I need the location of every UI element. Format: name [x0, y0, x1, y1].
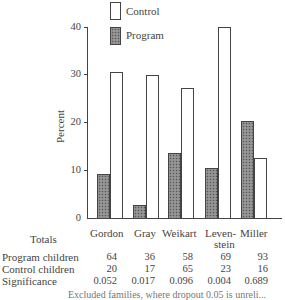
- cell: 69: [197, 251, 231, 262]
- bar-miller-control: [254, 158, 267, 219]
- bar-gordon-program: [97, 174, 110, 219]
- category-gordon: Gordon: [90, 227, 124, 239]
- bar-gray-control: [146, 75, 159, 219]
- y-axis-line: [87, 27, 88, 219]
- bar-weikart-program: [168, 153, 181, 219]
- category-gray: Gray: [134, 227, 156, 239]
- bar-levenstein-program: [205, 168, 218, 219]
- bar-weikart-control: [181, 88, 194, 219]
- cell: 23: [197, 263, 231, 274]
- cell: 0.004: [197, 275, 231, 286]
- category-miller: Miller: [240, 227, 268, 239]
- y-tick-30: [84, 74, 88, 75]
- cell: 58: [159, 251, 193, 262]
- y-tick-40: [84, 27, 88, 28]
- legend-program-label: Program: [126, 29, 164, 41]
- y-tick-20: [84, 122, 88, 123]
- cell: 20: [83, 263, 117, 274]
- bar-miller-program: [241, 121, 254, 219]
- y-axis-label: Percent: [54, 110, 66, 143]
- y-tick-label-30: 30: [61, 68, 81, 79]
- category-levenstein-line2: stein: [214, 238, 235, 250]
- bar-levenstein-control: [218, 27, 231, 219]
- cell: 0.017: [121, 275, 155, 286]
- legend-control-label: Control: [126, 5, 160, 17]
- row-label-control-children: Control children: [2, 263, 74, 275]
- y-tick-label-40: 40: [61, 21, 81, 32]
- cell: 93: [234, 251, 268, 262]
- y-tick-label-10: 10: [61, 164, 81, 175]
- y-tick-label-0: 0: [61, 212, 81, 223]
- cell: 16: [234, 263, 268, 274]
- cell: 64: [83, 251, 117, 262]
- cell: 17: [121, 263, 155, 274]
- y-tick-10: [84, 170, 88, 171]
- footnote: Excluded families, where dropout 0.05 is…: [68, 289, 266, 300]
- cell: 0.096: [159, 275, 193, 286]
- legend-control-swatch: [110, 2, 121, 20]
- bar-gray-program: [133, 205, 146, 219]
- category-weikart: Weikart: [162, 227, 197, 239]
- bar-gordon-control: [110, 72, 123, 219]
- row-label-program-children: Program children: [2, 251, 79, 263]
- table-title: Totals: [30, 233, 57, 245]
- cell: 0.052: [83, 275, 117, 286]
- cell: 0.689: [234, 275, 268, 286]
- row-label-significance: Significance: [2, 275, 57, 287]
- cell: 36: [121, 251, 155, 262]
- cell: 65: [159, 263, 193, 274]
- legend-program-swatch: [110, 27, 121, 45]
